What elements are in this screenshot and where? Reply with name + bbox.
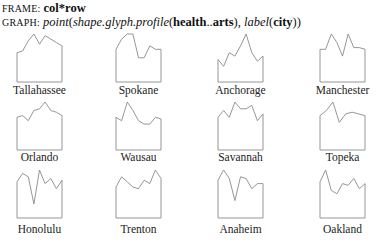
city-glyph: Wausau [116, 102, 161, 163]
city-label: Anaheim [219, 223, 261, 235]
city-glyph: Manchester [316, 34, 370, 96]
glyph-grid: TallahasseeSpokaneAnchorageManchesterOrl… [0, 0, 380, 244]
profile-glyph-shape [218, 102, 263, 150]
city-label: Wausau [120, 151, 156, 163]
profile-glyph-shape [116, 170, 161, 218]
city-glyph: Savannah [218, 102, 263, 163]
profile-glyph-shape [116, 34, 161, 82]
profile-glyph-shape [218, 170, 263, 218]
profile-glyph-shape [116, 102, 161, 150]
profile-glyph-shape [320, 102, 365, 150]
profile-glyph-shape [320, 170, 365, 218]
city-label: Tallahassee [13, 84, 66, 96]
profile-glyph-shape [17, 170, 62, 218]
city-label: Savannah [218, 151, 263, 163]
city-glyph: Topeka [320, 102, 365, 164]
profile-glyph-shape [17, 34, 62, 82]
city-glyph: Trenton [116, 170, 161, 235]
city-label: Honolulu [18, 223, 62, 235]
city-label: Spokane [119, 84, 159, 97]
city-label: Topeka [326, 151, 360, 164]
city-glyph: Tallahassee [13, 34, 66, 96]
city-glyph: Orlando [17, 102, 62, 163]
city-label: Manchester [316, 84, 370, 96]
city-label: Anchorage [215, 84, 265, 97]
city-glyph: Anaheim [218, 170, 263, 235]
city-glyph: Oakland [320, 170, 365, 235]
city-glyph: Spokane [116, 34, 161, 97]
city-glyph: Honolulu [17, 170, 62, 235]
profile-glyph-shape [218, 34, 263, 82]
city-glyph: Anchorage [215, 34, 265, 97]
profile-glyph-shape [320, 34, 365, 82]
city-label: Orlando [21, 151, 59, 163]
city-label: Oakland [323, 223, 362, 235]
city-label: Trenton [121, 223, 157, 235]
profile-glyph-shape [17, 102, 62, 150]
